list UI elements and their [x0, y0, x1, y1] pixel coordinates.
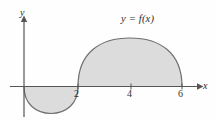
- figure-container: y x y = f(x) 2 4 6: [0, 0, 215, 120]
- function-plot: [0, 0, 215, 120]
- x-tick-label-2: 2: [74, 89, 79, 99]
- shaded-region-positive: [78, 38, 182, 87]
- x-tick-label-6: 6: [178, 89, 183, 99]
- y-axis-label: y: [20, 8, 24, 18]
- shaded-region-negative: [24, 87, 78, 114]
- function-equation-label: y = f(x): [121, 14, 154, 25]
- x-tick-label-4: 4: [127, 89, 132, 99]
- x-axis-label: x: [203, 81, 207, 91]
